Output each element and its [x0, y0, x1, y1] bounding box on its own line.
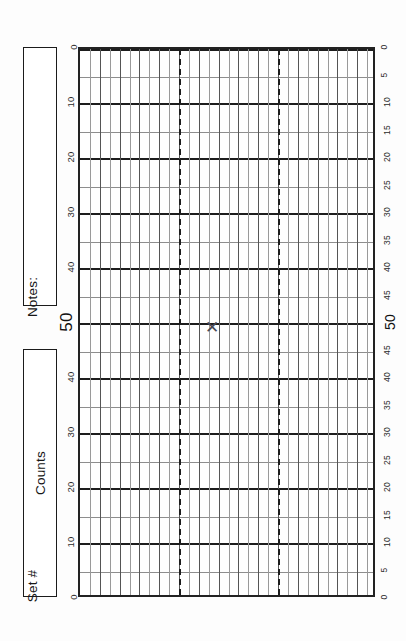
left-axis-ticks: 01020304050403020100: [56, 47, 78, 597]
counts-set-box[interactable]: Counts Set #: [23, 349, 57, 597]
right-tick-label: 30: [382, 427, 392, 437]
right-tick-label: 0: [379, 595, 389, 600]
left-tick-label: 50: [56, 312, 76, 331]
left-tick-label: 10: [65, 537, 76, 548]
left-tick-label: 40: [65, 262, 76, 273]
right-tick-label: 15: [382, 125, 392, 135]
right-tick-label: 30: [382, 207, 392, 217]
left-tick-label: 10: [65, 97, 76, 108]
right-tick-label: 15: [382, 510, 392, 520]
right-tick-label: 50: [382, 314, 398, 330]
right-tick-label: 45: [382, 290, 392, 300]
left-tick-label: 20: [65, 482, 76, 493]
right-tick-label: 5: [379, 567, 389, 572]
notes-box-label: Notes:: [25, 277, 40, 317]
right-tick-label: 40: [382, 372, 392, 382]
left-tick-label: 30: [65, 427, 76, 438]
right-tick-label: 20: [382, 152, 392, 162]
counts-axis-label: Counts: [33, 451, 48, 495]
left-tick-label: 20: [65, 152, 76, 163]
set-number-axis-label: Set #: [25, 570, 40, 603]
right-axis-ticks: 05101520253035404550454035302520151050: [376, 47, 402, 597]
left-tick-label: 30: [65, 207, 76, 218]
right-tick-label: 35: [382, 235, 392, 245]
scanned-form-sheet: Notes: Counts Set # ✕ 010203040504030201…: [0, 0, 406, 641]
left-tick-label: 0: [68, 594, 79, 599]
data-point-x[interactable]: ✕: [205, 318, 219, 335]
right-tick-label: 25: [382, 180, 392, 190]
right-tick-label: 45: [382, 345, 392, 355]
right-tick-label: 25: [382, 455, 392, 465]
right-tick-label: 20: [382, 482, 392, 492]
right-tick-label: 35: [382, 400, 392, 410]
notes-box[interactable]: Notes:: [23, 47, 57, 306]
right-tick-label: 10: [382, 537, 392, 547]
right-tick-label: 5: [379, 72, 389, 77]
plotted-marks-layer: ✕: [80, 49, 373, 595]
left-tick-label: 0: [68, 44, 79, 49]
tally-grid-chart[interactable]: ✕: [78, 47, 375, 597]
right-tick-label: 0: [379, 45, 389, 50]
right-tick-label: 10: [382, 97, 392, 107]
right-tick-label: 40: [382, 262, 392, 272]
left-tick-label: 40: [65, 372, 76, 383]
